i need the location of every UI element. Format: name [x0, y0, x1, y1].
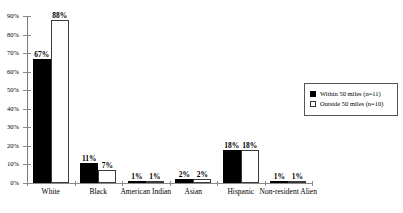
- bar-within-50-miles: 2%: [175, 179, 193, 183]
- bar-within-50-miles: 11%: [80, 163, 98, 183]
- bar-value-label: 88%: [52, 11, 67, 20]
- bar-group: 2%2%Asian: [170, 14, 218, 183]
- legend-item-label: Outside 50 miles (n=10): [320, 100, 383, 108]
- bar-within-50-miles: 1%: [270, 181, 288, 183]
- y-axis-tick-label: 0%: [10, 178, 19, 187]
- bar-group: 1%1%American Indian: [122, 14, 170, 183]
- chart-legend: Within 50 miles (n=11) Outside 50 miles …: [304, 83, 398, 116]
- bar-outside-50-miles: 2%: [193, 179, 211, 183]
- bar-value-label: 1%: [149, 172, 160, 181]
- bar-value-label: 7%: [102, 161, 113, 170]
- y-axis-tick-label: 20%: [7, 141, 19, 150]
- bar-outside-50-miles: 1%: [288, 181, 306, 183]
- x-axis-tick: [312, 181, 313, 186]
- bar-outside-50-miles: 7%: [98, 170, 116, 183]
- y-axis-tick-label: 10%: [7, 159, 19, 168]
- bar-group: 67%88%White: [27, 14, 75, 183]
- bar-chart: 0%10%20%30%40%50%60%70%80%90% 67%88%Whit…: [0, 0, 403, 213]
- bar-outside-50-miles: 88%: [51, 20, 69, 183]
- legend-item-outside: Outside 50 miles (n=10): [310, 100, 392, 108]
- bar-value-label: 2%: [197, 170, 208, 179]
- bar-outside-50-miles: 18%: [241, 150, 259, 183]
- legend-item-label: Within 50 miles (n=11): [320, 90, 381, 98]
- x-axis-category-label: Non-resident Alien: [255, 187, 321, 196]
- plot-area: 0%10%20%30%40%50%60%70%80%90% 67%88%Whit…: [27, 14, 312, 185]
- bar-outside-50-miles: 1%: [146, 181, 164, 183]
- bar-value-label: 1%: [292, 172, 303, 181]
- bar-within-50-miles: 67%: [33, 59, 51, 183]
- bar-group: 11%7%Black: [75, 14, 123, 183]
- legend-swatch-filled-icon: [310, 91, 316, 97]
- y-axis-tick-label: 40%: [7, 104, 19, 113]
- bar-value-label: 18%: [242, 141, 257, 150]
- bar-within-50-miles: 18%: [223, 150, 241, 183]
- bar-group: 18%18%Hispanic: [217, 14, 265, 183]
- y-axis-tick-label: 90%: [7, 11, 19, 20]
- legend-swatch-outline-icon: [310, 101, 316, 107]
- bar-value-label: 1%: [274, 172, 285, 181]
- bar-value-label: 67%: [34, 50, 49, 59]
- bar-value-label: 18%: [224, 141, 239, 150]
- y-axis-tick-label: 30%: [7, 122, 19, 131]
- bar-within-50-miles: 1%: [128, 181, 146, 183]
- chart-title: [120, 0, 295, 2]
- y-axis-tick-label: 50%: [7, 85, 19, 94]
- bar-value-label: 11%: [82, 154, 97, 163]
- y-axis-tick-label: 70%: [7, 48, 19, 57]
- bar-value-label: 2%: [179, 170, 190, 179]
- legend-item-within: Within 50 miles (n=11): [310, 90, 392, 98]
- bar-value-label: 1%: [131, 172, 142, 181]
- y-axis-tick-label: 60%: [7, 67, 19, 76]
- y-axis-tick-label: 80%: [7, 30, 19, 39]
